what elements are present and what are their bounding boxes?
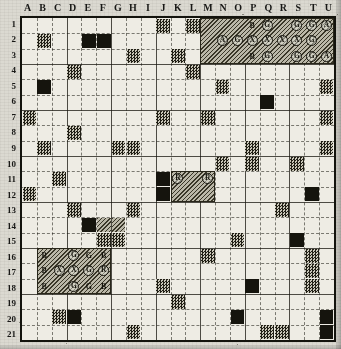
grid-cell-T12[interactable] xyxy=(305,187,319,201)
grid-cell-F15[interactable] xyxy=(97,233,111,247)
gridline-horizontal xyxy=(22,79,334,80)
grid-cell-G9[interactable] xyxy=(112,141,126,155)
grid-cell-S15[interactable] xyxy=(290,233,304,247)
cell-glyph-A: A xyxy=(319,18,334,33)
grid-cell-J12[interactable] xyxy=(156,187,170,201)
grid-cell-G14[interactable] xyxy=(112,218,126,232)
grid-cell-O15[interactable] xyxy=(231,233,245,247)
grid-cell-R13[interactable] xyxy=(275,203,289,217)
grid-cell-J1[interactable] xyxy=(156,19,170,33)
grid-cell-F2[interactable] xyxy=(97,34,111,48)
grid-canvas[interactable]: BGGGAAGXXXXGBGGGARRBGGBBXXGRBGGB xyxy=(22,18,334,340)
grid-cell-M16[interactable] xyxy=(201,249,215,263)
grid-cell-T18[interactable] xyxy=(305,279,319,293)
gridline-horizontal xyxy=(22,95,334,96)
grid-cell-N10[interactable] xyxy=(216,157,230,171)
row-header-column: 123456789101112131415161718192021 xyxy=(0,16,19,342)
grid-cell-D4[interactable] xyxy=(67,65,81,79)
cell-glyph-G: G xyxy=(304,18,319,33)
column-label-U: U xyxy=(321,0,336,15)
grid-cell-B5[interactable] xyxy=(37,80,51,94)
grid-cell-J18[interactable] xyxy=(156,279,170,293)
grid-cell-H21[interactable] xyxy=(127,325,141,339)
grid-cell-N5[interactable] xyxy=(216,80,230,94)
grid-cell-U5[interactable] xyxy=(320,80,334,94)
row-label-14: 14 xyxy=(0,218,19,234)
gridline-vertical xyxy=(111,18,112,340)
column-label-T: T xyxy=(306,0,321,15)
row-label-11: 11 xyxy=(0,171,19,187)
grid-cell-D8[interactable] xyxy=(67,126,81,140)
row-label-10: 10 xyxy=(0,156,19,172)
grid-cell-P18[interactable] xyxy=(245,279,259,293)
grid-cell-T16[interactable] xyxy=(305,249,319,263)
grid-cell-F14[interactable] xyxy=(97,218,111,232)
column-header-row: ABCDEFGHIJKLMNOPQRSTU xyxy=(20,0,336,15)
center-block-label-row: RR xyxy=(171,171,216,186)
grid-cell-U20[interactable] xyxy=(320,310,334,324)
grid-cell-E14[interactable] xyxy=(82,218,96,232)
column-label-H: H xyxy=(125,0,140,15)
cell-glyph-G: G xyxy=(289,18,304,33)
gridline-vertical xyxy=(141,18,142,340)
grid-cell-K3[interactable] xyxy=(171,49,185,63)
row-label-5: 5 xyxy=(0,78,19,94)
grid-cell-O20[interactable] xyxy=(231,310,245,324)
grid-cell-P9[interactable] xyxy=(245,141,259,155)
gridline-horizontal xyxy=(22,233,334,234)
column-label-F: F xyxy=(95,0,110,15)
cell-glyph-G: G xyxy=(304,49,319,64)
grid-cell-K19[interactable] xyxy=(171,295,185,309)
grid-cell-B9[interactable] xyxy=(37,141,51,155)
cell-glyph-B: B xyxy=(37,248,52,263)
grid-cell-H3[interactable] xyxy=(127,49,141,63)
grid-cell-M7[interactable] xyxy=(201,111,215,125)
cell-glyph-G: G xyxy=(260,49,275,64)
cell-glyph-G: G xyxy=(304,33,319,48)
grid-cell-R21[interactable] xyxy=(275,325,289,339)
grid-cell-J11[interactable] xyxy=(156,172,170,186)
grid-cell-L4[interactable] xyxy=(186,65,200,79)
row-label-6: 6 xyxy=(0,94,19,110)
grid-frame[interactable]: BGGGAAGXXXXGBGGGARRBGGBBXXGRBGGB xyxy=(20,16,336,342)
grid-cell-U7[interactable] xyxy=(320,111,334,125)
grid-cell-U21[interactable] xyxy=(320,325,334,339)
grid-cell-A7[interactable] xyxy=(23,111,37,125)
top-right-block-label-row: BGGGA xyxy=(200,49,334,64)
grid-cell-J7[interactable] xyxy=(156,111,170,125)
cell-glyph-B: B xyxy=(96,279,111,294)
column-label-K: K xyxy=(170,0,185,15)
row-label-16: 16 xyxy=(0,249,19,265)
grid-cell-C11[interactable] xyxy=(52,172,66,186)
row-label-15: 15 xyxy=(0,233,19,249)
column-label-G: G xyxy=(110,0,125,15)
column-label-O: O xyxy=(231,0,246,15)
grid-cell-Q21[interactable] xyxy=(260,325,274,339)
grid-cell-E2[interactable] xyxy=(82,34,96,48)
cell-glyph-B: B xyxy=(245,18,260,33)
cell-glyph-A: A xyxy=(319,49,334,64)
gridline-horizontal xyxy=(22,110,334,111)
grid-cell-S10[interactable] xyxy=(290,157,304,171)
grid-cell-D13[interactable] xyxy=(67,203,81,217)
column-label-R: R xyxy=(276,0,291,15)
grid-cell-C20[interactable] xyxy=(52,310,66,324)
page-edge-bottom xyxy=(0,345,341,349)
bottom-left-block-label-row: BGGB xyxy=(37,248,111,263)
grid-cell-Q6[interactable] xyxy=(260,95,274,109)
column-label-L: L xyxy=(186,0,201,15)
grid-cell-H13[interactable] xyxy=(127,203,141,217)
column-label-N: N xyxy=(216,0,231,15)
gridline-vertical xyxy=(289,18,290,340)
grid-cell-B2[interactable] xyxy=(37,34,51,48)
grid-cell-U9[interactable] xyxy=(320,141,334,155)
gridline-vertical xyxy=(275,18,276,340)
row-label-3: 3 xyxy=(0,47,19,63)
grid-cell-A12[interactable] xyxy=(23,187,37,201)
grid-cell-T17[interactable] xyxy=(305,264,319,278)
grid-cell-P10[interactable] xyxy=(245,157,259,171)
grid-cell-L1[interactable] xyxy=(186,19,200,33)
grid-cell-G15[interactable] xyxy=(112,233,126,247)
grid-cell-H9[interactable] xyxy=(127,141,141,155)
grid-cell-D20[interactable] xyxy=(67,310,81,324)
